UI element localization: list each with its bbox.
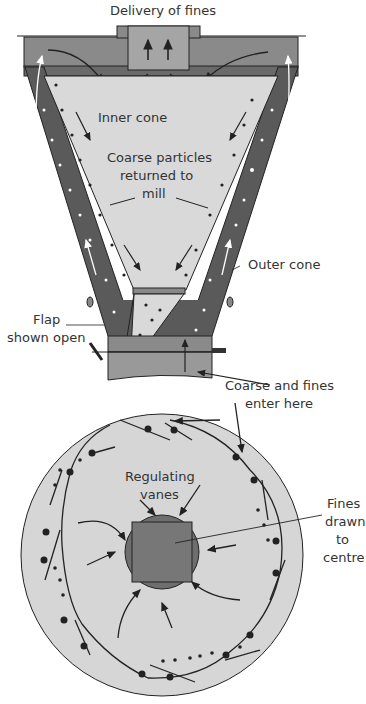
- label-regulating-vanes-1: Regulating: [125, 469, 195, 485]
- label-fines-1: Fines: [327, 496, 360, 512]
- label-fines-3: to: [336, 532, 349, 548]
- label-regulating-vanes-2: vanes: [140, 487, 179, 503]
- label-enter-2: enter here: [245, 396, 313, 412]
- label-enter-1: Coarse and fines: [225, 378, 334, 394]
- label-flap-2: shown open: [7, 330, 85, 346]
- label-inner-cone: Inner cone: [98, 110, 167, 126]
- label-fines-4: centre: [323, 550, 365, 566]
- label-coarse-returned-2: returned to: [120, 168, 193, 184]
- plan-view: [21, 403, 303, 696]
- label-coarse-returned-3: mill: [142, 186, 166, 202]
- label-coarse-returned-1: Coarse particles: [107, 150, 212, 166]
- label-outer-cone: Outer cone: [248, 257, 320, 273]
- classifier-diagram: [0, 0, 366, 704]
- label-flap-1: Flap: [33, 312, 60, 328]
- label-fines-2: drawn: [325, 514, 365, 530]
- label-delivery-of-fines: Delivery of fines: [110, 3, 216, 19]
